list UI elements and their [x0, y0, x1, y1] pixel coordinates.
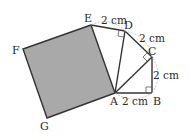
- label-B: B: [153, 95, 161, 108]
- shaded-square-AEFG: [23, 25, 115, 118]
- right-angle-B-marker: [146, 87, 152, 93]
- label-G: G: [40, 120, 49, 133]
- length-CD: 2 cm: [139, 32, 165, 44]
- length-AB: 2 cm: [122, 95, 148, 107]
- label-F: F: [12, 44, 20, 57]
- label-C: C: [148, 45, 156, 58]
- label-E: E: [84, 12, 92, 25]
- length-DE: 2 cm: [101, 14, 127, 26]
- segment-AD: [115, 31, 125, 93]
- geometry-diagram: A B C D E F G 2 cm 2 cm 2 cm 2 cm: [0, 0, 189, 137]
- label-A: A: [109, 95, 119, 108]
- length-BC: 2 cm: [153, 69, 179, 81]
- right-angle-C-marker: [143, 53, 147, 61]
